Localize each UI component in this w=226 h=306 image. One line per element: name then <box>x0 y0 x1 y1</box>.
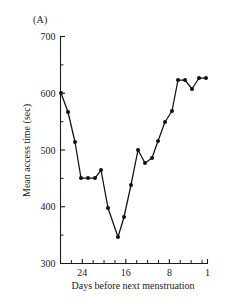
data-point <box>170 109 174 113</box>
data-point <box>86 176 90 180</box>
y-tick-label: 300 <box>41 258 56 269</box>
data-point <box>143 161 147 165</box>
y-tick-label: 600 <box>41 88 56 99</box>
line-chart: 300400500600700241681 <box>0 0 226 306</box>
panel-label: (A) <box>33 14 47 25</box>
data-point <box>66 110 70 114</box>
y-tick-label: 500 <box>41 145 56 156</box>
data-point <box>136 148 140 152</box>
data-line <box>61 78 206 237</box>
data-point <box>150 156 154 160</box>
data-point <box>190 87 194 91</box>
data-point <box>204 76 208 80</box>
data-point <box>106 206 110 210</box>
data-series-group <box>59 76 208 239</box>
data-point <box>156 139 160 143</box>
x-tick-label: 16 <box>121 267 131 278</box>
data-point <box>116 235 120 239</box>
figure-panel-a: (A) Mean access time (sec) 3004005006007… <box>0 0 226 306</box>
chart-axes: 300400500600700241681 <box>41 31 211 277</box>
y-axis-label: Mean access time (sec) <box>21 81 32 221</box>
data-point <box>122 215 126 219</box>
data-point <box>183 78 187 82</box>
x-tick-label: 24 <box>77 267 87 278</box>
data-point <box>59 91 63 95</box>
x-tick-label: 8 <box>167 267 172 278</box>
x-tick-label: 1 <box>205 267 210 278</box>
data-point <box>163 120 167 124</box>
data-point <box>73 140 77 144</box>
y-tick-label: 400 <box>41 201 56 212</box>
data-point <box>99 168 103 172</box>
data-point <box>79 176 83 180</box>
data-point <box>93 176 97 180</box>
data-point <box>176 78 180 82</box>
y-tick-label: 700 <box>41 31 56 42</box>
data-point <box>197 76 201 80</box>
x-axis-label: Days before next menstruation <box>40 280 226 291</box>
data-point <box>129 183 133 187</box>
